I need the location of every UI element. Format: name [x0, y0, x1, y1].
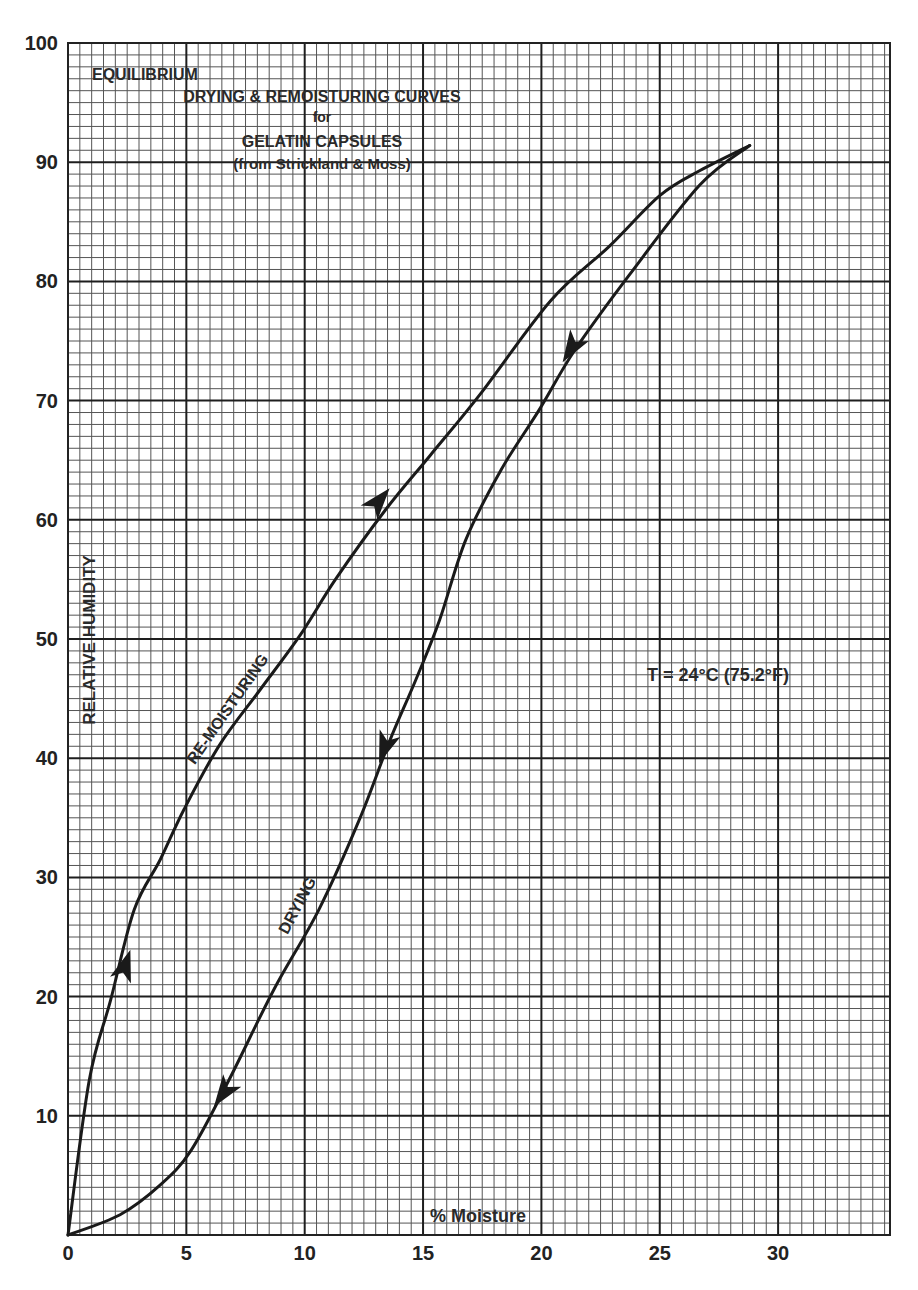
- y-axis-label: RELATIVE HUMIDITY: [80, 554, 99, 724]
- x-axis-label: % Moisture: [430, 1206, 526, 1226]
- drying-curve-label: DRYING: [275, 874, 319, 936]
- temperature-annotation: T = 24°C (75.2°F): [647, 665, 789, 685]
- y-axis-ticks: 102030405060708090100: [25, 32, 58, 1127]
- x-tick-label: 15: [412, 1242, 434, 1264]
- y-tick-label: 30: [36, 866, 58, 888]
- x-tick-label: 20: [530, 1242, 552, 1264]
- title-line: DRYING & REMOISTURING CURVES: [183, 88, 461, 105]
- arrow-icon: [369, 729, 401, 767]
- x-tick-label: 0: [62, 1242, 73, 1264]
- x-tick-label: 5: [181, 1242, 192, 1264]
- y-tick-label: 50: [36, 628, 58, 650]
- y-tick-label: 80: [36, 270, 58, 292]
- chart-title: EQUILIBRIUMDRYING & REMOISTURING CURVESf…: [92, 66, 461, 172]
- y-tick-label: 90: [36, 151, 58, 173]
- y-tick-label: 40: [36, 747, 58, 769]
- y-tick-label: 70: [36, 390, 58, 412]
- title-line: for: [313, 109, 332, 125]
- y-tick-label: 100: [25, 32, 58, 54]
- y-tick-label: 60: [36, 509, 58, 531]
- y-tick-label: 10: [36, 1105, 58, 1127]
- title-line: EQUILIBRIUM: [92, 66, 198, 83]
- remoisturing-curve-label: RE-MOISTURING: [183, 651, 271, 767]
- x-tick-label: 10: [294, 1242, 316, 1264]
- chart: 102030405060708090100 051015202530 EQUIL…: [0, 0, 918, 1290]
- x-axis-ticks: 051015202530: [62, 1242, 789, 1264]
- y-tick-label: 20: [36, 986, 58, 1008]
- title-line: GELATIN CAPSULES: [242, 133, 403, 150]
- direction-arrows: [110, 329, 589, 1113]
- x-tick-label: 25: [649, 1242, 671, 1264]
- x-tick-label: 30: [767, 1242, 789, 1264]
- title-line: (from Strickland & Moss): [233, 155, 411, 172]
